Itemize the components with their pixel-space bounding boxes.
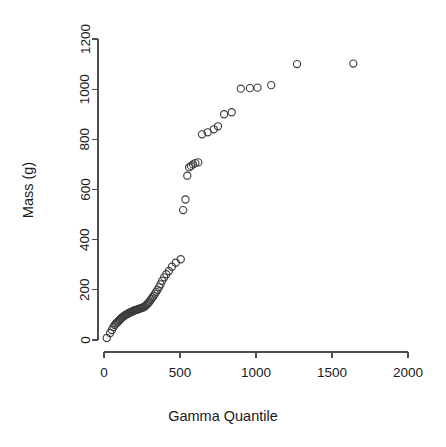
scatter-point	[268, 82, 275, 89]
y-axis-ticks	[92, 39, 98, 340]
scatter-point	[177, 256, 184, 263]
scatter-point	[182, 196, 189, 203]
x-tick-label: 2000	[393, 365, 423, 380]
x-tick-label: 500	[169, 365, 192, 380]
y-axis-title: Mass (g)	[20, 162, 36, 218]
y-tick-label: 1200	[78, 24, 93, 54]
y-tick-label: 600	[78, 178, 93, 201]
x-tick-label: 1000	[241, 365, 271, 380]
scatter-point	[237, 85, 244, 92]
scatter-point	[103, 334, 110, 341]
y-axis-group: 020040060080010001200	[78, 24, 99, 344]
y-axis-tick-labels: 020040060080010001200	[78, 24, 93, 344]
scatter-point	[228, 109, 235, 116]
scatter-point	[220, 111, 227, 118]
x-axis-title: Gamma Quantile	[168, 408, 278, 424]
y-tick-label: 800	[78, 128, 93, 151]
y-tick-label: 200	[78, 279, 93, 302]
scatter-point	[293, 60, 300, 67]
qq-plot-figure: 020040060080010001200 0500100015002000 G…	[0, 0, 446, 447]
scatter-points-group	[103, 60, 357, 342]
x-tick-label: 0	[100, 365, 108, 380]
scatter-point	[350, 60, 357, 67]
x-axis-tick-labels: 0500100015002000	[100, 365, 423, 380]
y-tick-label: 0	[78, 336, 93, 344]
scatter-point	[184, 172, 191, 179]
x-axis-ticks	[104, 352, 408, 358]
scatter-point	[254, 84, 261, 91]
scatter-point	[246, 85, 253, 92]
x-tick-label: 1500	[317, 365, 347, 380]
plot-canvas: 020040060080010001200 0500100015002000 G…	[0, 0, 446, 447]
y-tick-label: 400	[78, 228, 93, 251]
y-tick-label: 1000	[78, 74, 93, 104]
x-axis-group: 0500100015002000	[100, 352, 423, 380]
scatter-point	[180, 206, 187, 213]
